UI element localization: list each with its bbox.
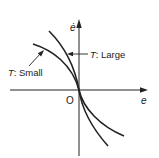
x-axis-label: e (141, 95, 147, 106)
y-axis-label: ė (70, 22, 76, 33)
phase-plane-diagram: ė e O T:Large T:Small (0, 0, 159, 158)
label-t-large: T:Large (90, 49, 125, 60)
origin-label: O (66, 95, 74, 106)
label-t-small: T:Small (8, 67, 43, 78)
leader-t-large (67, 52, 88, 56)
label-t-large-value: Large (101, 49, 125, 60)
label-t-large-sep: : (96, 49, 99, 60)
label-t-small-sep: : (14, 67, 17, 78)
x-axis-arrow-icon (140, 87, 148, 92)
label-t-small-value: Small (19, 67, 43, 78)
y-axis-arrow-icon (76, 19, 81, 28)
leader-t-small (29, 50, 44, 66)
